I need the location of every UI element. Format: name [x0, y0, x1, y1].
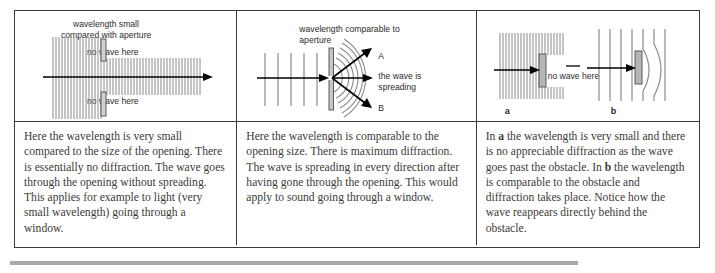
figure3b-arrow: [587, 64, 636, 72]
figure3a-obstacle: [539, 54, 546, 87]
ray-arrow-b: [332, 78, 372, 108]
caption3-part1: In: [486, 130, 499, 143]
caption-text-2: Here the wavelength is comparable to the…: [237, 122, 475, 205]
barrier-lower-slab: [101, 92, 106, 116]
captions-row: Here the wavelength is very small compar…: [15, 121, 699, 245]
footer-rule: [10, 261, 578, 265]
caption-text-3: In a the wavelength is very small and th…: [477, 122, 699, 236]
figure2-wave-diagram: [237, 11, 475, 121]
diffraction-comparison-table: wavelength small compared with aperture …: [14, 10, 700, 248]
figure3a-wavefronts-upper: [500, 33, 545, 99]
figure3b-obstacle: [635, 51, 642, 84]
figure3b-diffracted-wavefronts: [643, 29, 665, 101]
figure3-wave-diagram: [477, 11, 699, 121]
barrier-upper-slab: [101, 39, 106, 61]
caption-cell-comparable-wavelength: Here the wavelength is comparable to the…: [236, 122, 475, 245]
incident-arrow: [257, 74, 329, 82]
caption-text-1: Here the wavelength is very small compar…: [15, 122, 236, 236]
incoming-wavefronts: [265, 53, 317, 106]
caption-cell-small-wavelength: Here the wavelength is very small compar…: [15, 122, 236, 245]
figure-cell-comparable-wavelength: wavelength comparable to aperture A the …: [236, 11, 475, 121]
ray-arrow-center: [332, 74, 373, 82]
figure1-wave-diagram: [15, 11, 236, 121]
incoming-wavefronts: [53, 37, 101, 119]
figures-row: wavelength small compared with aperture …: [15, 11, 699, 121]
figure-cell-obstacle-comparison: no wave here a b: [476, 11, 699, 121]
ray-arrow-a: [332, 48, 372, 78]
figure3a-wavefronts-shadow-edges: [548, 33, 563, 99]
caption-cell-obstacle-comparison: In a the wavelength is very small and th…: [476, 122, 699, 245]
figure-cell-small-wavelength: wavelength small compared with aperture …: [15, 11, 236, 121]
